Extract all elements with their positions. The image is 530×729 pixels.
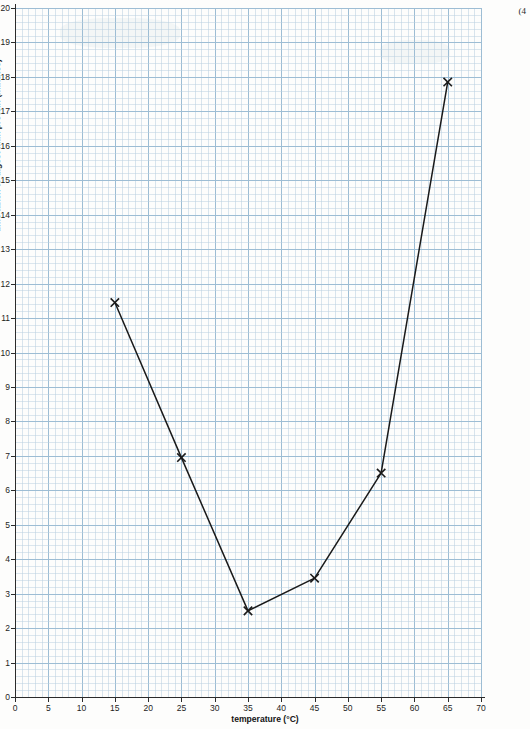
y-tick-label: 3	[0, 589, 10, 599]
x-tick	[381, 698, 382, 702]
y-tick-label: 1	[0, 658, 10, 668]
y-tick	[11, 525, 15, 526]
x-tick	[181, 698, 182, 702]
page-corner-annotation: (4	[519, 6, 527, 16]
x-tick-label: 5	[38, 703, 58, 713]
y-tick-label: 11	[0, 313, 10, 323]
x-tick	[448, 698, 449, 702]
y-tick	[11, 559, 15, 560]
x-tick	[82, 698, 83, 702]
data-point-marker	[111, 298, 119, 306]
x-tick-label: 70	[471, 703, 491, 713]
x-tick-label: 60	[404, 703, 424, 713]
y-tick	[11, 456, 15, 457]
x-tick-label: 65	[438, 703, 458, 713]
y-tick-label: 12	[0, 279, 10, 289]
y-tick	[11, 215, 15, 216]
x-tick-label: 45	[305, 703, 325, 713]
x-tick	[15, 698, 16, 702]
y-tick-label: 7	[0, 451, 10, 461]
data-point-marker	[177, 453, 185, 461]
y-tick	[11, 697, 15, 698]
y-tick	[11, 490, 15, 491]
y-tick-label: 13	[0, 244, 10, 254]
x-tick	[348, 698, 349, 702]
y-tick	[11, 249, 15, 250]
y-tick-label: 9	[0, 382, 10, 392]
y-tick-label: 17	[0, 106, 10, 116]
data-point-marker	[310, 574, 318, 582]
x-tick-label: 35	[238, 703, 258, 713]
y-tick	[11, 353, 15, 354]
x-tick	[281, 698, 282, 702]
x-tick-label: 50	[338, 703, 358, 713]
y-tick-label: 15	[0, 175, 10, 185]
y-tick-label: 2	[0, 623, 10, 633]
graph-paper-page: temperature (°C) time taken to digest mi…	[0, 0, 530, 729]
y-tick-label: 14	[0, 210, 10, 220]
x-tick-label: 40	[271, 703, 291, 713]
y-tick	[11, 387, 15, 388]
x-tick	[115, 698, 116, 702]
y-tick	[11, 318, 15, 319]
y-tick	[11, 594, 15, 595]
data-point-marker	[244, 607, 252, 615]
x-tick	[481, 698, 482, 702]
x-tick-label: 55	[371, 703, 391, 713]
y-tick	[11, 8, 15, 9]
y-tick	[11, 421, 15, 422]
y-tick	[11, 111, 15, 112]
y-tick	[11, 146, 15, 147]
y-tick-label: 5	[0, 520, 10, 530]
x-tick-label: 15	[105, 703, 125, 713]
y-tick-label: 0	[0, 692, 10, 702]
y-tick-label: 8	[0, 416, 10, 426]
x-tick-label: 10	[72, 703, 92, 713]
y-tick-label: 18	[0, 72, 10, 82]
x-tick	[48, 698, 49, 702]
data-series-layer	[0, 0, 530, 729]
x-tick	[215, 698, 216, 702]
x-tick-label: 20	[138, 703, 158, 713]
y-tick	[11, 663, 15, 664]
y-tick-label: 4	[0, 554, 10, 564]
y-tick-label: 6	[0, 485, 10, 495]
x-axis-title: temperature (°C)	[0, 714, 530, 724]
y-tick	[11, 42, 15, 43]
y-tick	[11, 77, 15, 78]
y-tick	[11, 180, 15, 181]
data-line	[115, 82, 448, 611]
x-tick	[315, 698, 316, 702]
x-tick	[248, 698, 249, 702]
y-tick-label: 19	[0, 37, 10, 47]
x-tick	[414, 698, 415, 702]
y-tick-label: 20	[0, 3, 10, 13]
x-tick-label: 25	[171, 703, 191, 713]
x-tick	[148, 698, 149, 702]
y-tick	[11, 284, 15, 285]
y-tick-label: 10	[0, 348, 10, 358]
y-tick-label: 16	[0, 141, 10, 151]
y-tick	[11, 628, 15, 629]
x-tick-label: 0	[5, 703, 25, 713]
x-tick-label: 30	[205, 703, 225, 713]
